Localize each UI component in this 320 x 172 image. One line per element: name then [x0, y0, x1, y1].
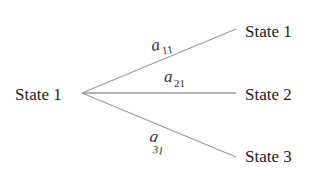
root-state-label: State 1	[15, 85, 62, 104]
edge-to-state-1	[82, 29, 236, 93]
edge-label-a21: a 21	[164, 67, 185, 89]
edge-label-a31: a 31	[147, 126, 168, 156]
edge-label-a11-var: a	[150, 35, 161, 55]
target-state-1-label: State 1	[245, 22, 292, 41]
target-state-2-label: State 2	[245, 85, 292, 104]
edge-label-a21-sub: 21	[174, 77, 185, 89]
edge-label-a31-sub: 31	[152, 143, 165, 157]
state-transition-tree: State 1 State 1 State 2 State 3 a 11 a 2…	[0, 0, 320, 172]
edge-label-a11-sub: 11	[161, 43, 173, 56]
edge-label-a11: a 11	[150, 33, 173, 58]
edge-label-a21-var: a	[164, 67, 173, 86]
target-state-3-label: State 3	[245, 147, 292, 166]
